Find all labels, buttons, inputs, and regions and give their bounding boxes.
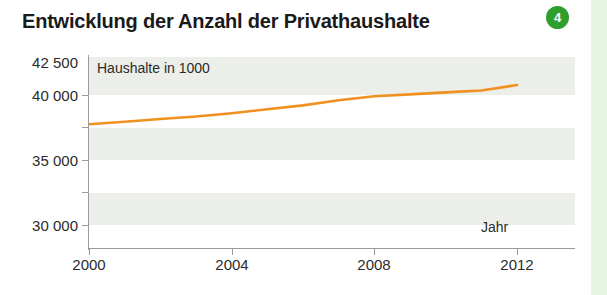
right-margin-strip <box>591 0 607 295</box>
y-axis-label-40000: 40 000 <box>32 87 78 104</box>
x-axis-title: Jahr <box>481 219 508 235</box>
x-tick-2000 <box>89 248 90 255</box>
y-tick-32500 <box>82 192 89 193</box>
x-axis-label-2000: 2000 <box>72 256 105 273</box>
y-axis-label-30000: 30 000 <box>32 217 78 234</box>
x-axis-label-2004: 2004 <box>215 256 248 273</box>
y-axis-line <box>88 55 89 250</box>
x-axis-label-2012: 2012 <box>500 256 533 273</box>
y-tick-30000 <box>82 225 89 226</box>
y-tick-37500 <box>82 127 89 128</box>
y-axis-label-35000: 35 000 <box>32 152 78 169</box>
x-axis-line <box>89 248 575 249</box>
y-axis-label-42500: 42 500 <box>32 54 78 71</box>
x-tick-2008 <box>374 248 375 255</box>
x-tick-2004 <box>232 248 233 255</box>
y-tick-40000 <box>82 95 89 96</box>
x-tick-2012 <box>517 248 518 255</box>
y-tick-35000 <box>82 160 89 161</box>
status-badge: 4 <box>546 6 569 29</box>
series-line-haushalte <box>89 85 517 124</box>
series-caption: Haushalte in 1000 <box>97 60 210 76</box>
x-axis-label-2008: 2008 <box>357 256 390 273</box>
page-title: Entwicklung der Anzahl der Privathaushal… <box>22 10 430 33</box>
left-margin-strip <box>0 0 4 295</box>
chart-figure: Entwicklung der Anzahl der Privathaushal… <box>0 0 607 295</box>
